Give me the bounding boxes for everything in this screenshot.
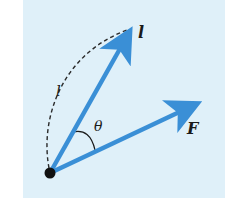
vector-F-label: F [186,119,200,138]
vector-diagram: l l θ F [0,0,233,209]
angle-theta-label: θ [94,118,103,134]
diagram-canvas: l l θ F [0,0,233,209]
angle-theta-arc [73,131,95,150]
vector-l-label: l [138,23,144,42]
origin-point [45,168,56,179]
arc-length-l-label: l [56,82,61,100]
